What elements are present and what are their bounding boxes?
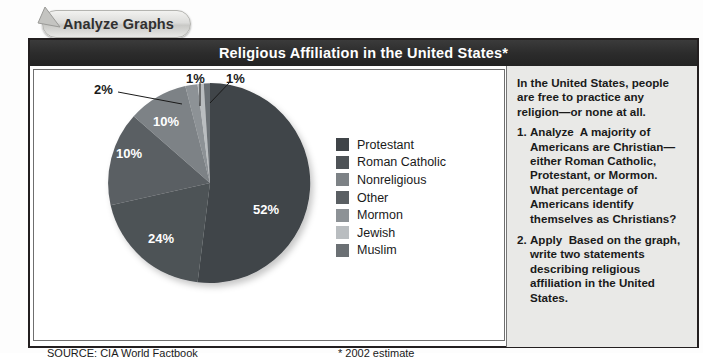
figure-title: Religious Affiliation in the United Stat… (219, 45, 508, 61)
pie-label-nonreligious: 10% (116, 146, 142, 161)
legend-label-protestant: Protestant (357, 138, 414, 152)
legend-item-nonreligious: Nonreligious (336, 171, 446, 189)
question-2: 2. Apply Based on the graph, write two s… (517, 233, 688, 305)
legend-item-other: Other (336, 189, 446, 207)
legend-label-nonreligious: Nonreligious (357, 173, 426, 187)
pie-label-protestant: 52% (253, 202, 279, 217)
pie-label-muslim: 1% (226, 71, 245, 86)
figure-frame: Religious Affiliation in the United Stat… (28, 38, 699, 348)
question-2-body: Apply Based on the graph, write two stat… (530, 233, 688, 305)
legend-item-mormon: Mormon (336, 206, 446, 224)
source-text: SOURCE: CIA World Factbook (47, 347, 198, 359)
chart-legend: Protestant Roman Catholic Nonreligious O… (336, 136, 446, 259)
question-1-keyword: Analyze (530, 125, 574, 138)
estimate-note: * 2002 estimate (338, 347, 414, 359)
legend-item-jewish: Jewish (336, 224, 446, 242)
question-panel: In the United States, people are free to… (506, 66, 697, 347)
legend-swatch-roman-catholic (336, 156, 349, 169)
question-2-number: 2. (517, 233, 530, 305)
figure-titlebar: Religious Affiliation in the United Stat… (30, 40, 697, 66)
legend-label-jewish: Jewish (357, 226, 395, 240)
pie-label-other: 10% (153, 114, 179, 129)
question-1-text: A majority of Americans are Christian—ei… (530, 125, 676, 224)
legend-item-protestant: Protestant (336, 136, 446, 154)
question-2-keyword: Apply (530, 233, 562, 246)
question-1-body: Analyze A majority of Americans are Chri… (530, 125, 688, 226)
legend-swatch-muslim (336, 244, 349, 257)
tab-label: Analyze Graphs (63, 16, 174, 32)
legend-swatch-protestant (336, 138, 349, 151)
question-1-number: 1. (517, 125, 530, 226)
legend-label-muslim: Muslim (357, 243, 397, 257)
pie-svg (34, 70, 334, 310)
tab-pill[interactable]: Analyze Graphs (42, 10, 191, 38)
legend-swatch-jewish (336, 226, 349, 239)
figure-body: 52% 24% 10% 10% 2% 1% 1% Protestant Ro (30, 66, 697, 346)
legend-label-other: Other (357, 191, 388, 205)
question-1: 1. Analyze A majority of Americans are C… (517, 125, 688, 226)
panel-intro-text: In the United States, people are free to… (517, 76, 688, 119)
pie-label-jewish: 1% (186, 71, 205, 86)
legend-item-muslim: Muslim (336, 242, 446, 260)
chart-footer: SOURCE: CIA World Factbook * 2002 estima… (33, 342, 505, 361)
pie-label-mormon: 2% (94, 82, 113, 97)
legend-label-roman-catholic: Roman Catholic (357, 155, 446, 169)
legend-swatch-mormon (336, 209, 349, 222)
legend-swatch-other (336, 191, 349, 204)
pie-slices (108, 83, 310, 283)
pie-chart: 52% 24% 10% 10% 2% 1% 1% (34, 70, 334, 310)
chart-area: 52% 24% 10% 10% 2% 1% 1% Protestant Ro (33, 69, 505, 341)
arrow-up-left-icon (34, 6, 64, 32)
legend-label-mormon: Mormon (357, 208, 403, 222)
legend-swatch-nonreligious (336, 173, 349, 186)
pie-label-roman-catholic: 24% (148, 231, 174, 246)
legend-item-roman-catholic: Roman Catholic (336, 154, 446, 172)
